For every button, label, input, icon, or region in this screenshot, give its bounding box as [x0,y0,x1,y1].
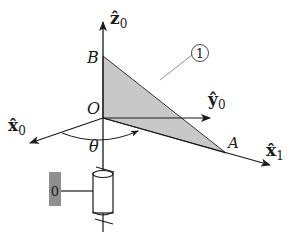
y0-label: ŷ0 [207,89,226,112]
base-link-label: 0 [51,184,59,199]
x1-label: x̂1 [266,140,284,163]
point-b-label: B [86,48,99,67]
callout-number: 1 [196,46,204,61]
joint-cylinder-top [93,171,113,178]
kinematic-diagram: 1 0 ẑ0 B O ŷ0 x̂0 θ A x̂1 [0,0,298,240]
theta-label: θ [89,137,99,156]
joint-bottom-tick [95,219,113,224]
z0-label: ẑ0 [110,8,127,31]
x0-label: x̂0 [8,115,26,138]
joint-cylinder-body [93,173,113,213]
theta-arc [62,131,138,140]
origin-label: O [87,99,100,118]
point-a-label: A [226,134,239,152]
callout-leader-line [160,55,192,80]
